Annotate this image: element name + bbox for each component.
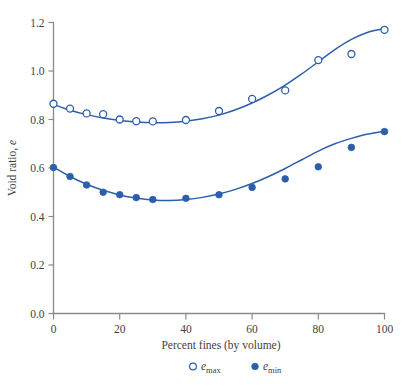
- data-point-marker: [249, 184, 256, 191]
- data-point-marker: [216, 191, 223, 198]
- series-e_min: [50, 128, 388, 203]
- y-axis-tick-label: 0.6: [30, 162, 45, 174]
- chart-legend: emaxemin: [190, 360, 282, 375]
- y-axis-tick-label: 0.0: [30, 308, 45, 320]
- data-point-marker: [381, 128, 388, 135]
- data-point-marker: [282, 87, 289, 94]
- data-point-marker: [348, 144, 355, 151]
- data-point-marker: [67, 105, 74, 112]
- data-point-marker: [83, 110, 90, 117]
- x-axis-tick-label: 60: [246, 323, 258, 335]
- chart-figure: 0.00.20.40.60.81.01.2 020406080100 Perce…: [0, 0, 408, 386]
- x-axis-title: Percent fines (by volume): [161, 339, 280, 352]
- data-point-marker: [133, 194, 140, 201]
- data-point-marker: [100, 111, 107, 118]
- data-point-marker: [83, 182, 90, 189]
- legend-open-circle-icon: [190, 363, 197, 370]
- data-point-marker: [50, 100, 57, 107]
- legend-item-label: emin: [263, 360, 282, 375]
- data-point-marker: [348, 51, 355, 58]
- x-axis-tick-label: 100: [376, 323, 394, 335]
- y-axis-title: Void ratio, e: [6, 140, 19, 196]
- x-axis-tick-label: 80: [313, 323, 325, 335]
- data-point-marker: [50, 164, 57, 171]
- x-axis-tick-label: 0: [51, 323, 57, 335]
- legend-item-max: emax: [190, 360, 222, 375]
- y-axis-title-symbol: e: [6, 140, 18, 145]
- y-axis-tick-label: 0.4: [30, 211, 45, 223]
- y-axis-tick-label: 1.2: [30, 17, 45, 29]
- data-point-marker: [133, 118, 140, 125]
- data-series-group: [50, 26, 388, 203]
- data-point-marker: [116, 191, 123, 198]
- data-point-marker: [149, 118, 156, 125]
- axis-titles-group: Percent fines (by volume)Void ratio, e: [6, 140, 281, 352]
- x-axis-tick-label: 40: [180, 323, 192, 335]
- legend-item-label: emax: [201, 360, 221, 375]
- void-ratio-vs-percent-fines-chart: 0.00.20.40.60.81.01.2 020406080100 Perce…: [0, 0, 408, 386]
- data-point-marker: [150, 196, 157, 203]
- series-e_max: [50, 26, 388, 125]
- data-point-marker: [67, 173, 74, 180]
- data-point-marker: [182, 116, 189, 123]
- y-axis-title-text: Void ratio,: [6, 145, 19, 196]
- legend-filled-circle-icon: [252, 363, 259, 370]
- data-point-marker: [381, 26, 388, 33]
- data-point-marker: [183, 195, 190, 202]
- data-point-marker: [100, 189, 107, 196]
- x-axis: 020406080100: [51, 314, 394, 335]
- legend-item-min: emin: [252, 360, 282, 375]
- data-point-marker: [315, 57, 322, 64]
- y-axis-tick-label: 1.0: [30, 65, 45, 77]
- data-point-marker: [282, 176, 289, 183]
- data-point-marker: [249, 95, 256, 102]
- data-point-marker: [116, 116, 123, 123]
- data-point-marker: [315, 163, 322, 170]
- x-axis-tick-label: 20: [114, 323, 126, 335]
- y-axis-tick-label: 0.2: [30, 259, 45, 271]
- y-axis-tick-label: 0.8: [30, 114, 45, 126]
- data-point-marker: [216, 108, 223, 115]
